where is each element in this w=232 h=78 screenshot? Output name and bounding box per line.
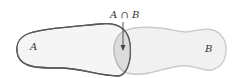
venn-diagram: A ∩ B A B [0,0,232,78]
intersection-label: A ∩ B [109,9,139,20]
set-b-label: B [204,43,212,54]
set-a-label: A [29,41,37,52]
venn-svg: A ∩ B A B [0,0,232,78]
